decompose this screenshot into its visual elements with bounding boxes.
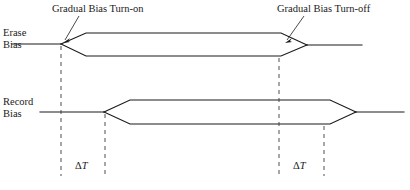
delta-t-label-right: ΔT <box>293 160 306 172</box>
gradual-bias-turn-off-label: Gradual Bias Turn-off <box>277 3 370 15</box>
delta-symbol-right: Δ <box>293 160 300 171</box>
turn-off-leader-line <box>287 16 304 40</box>
erase-bias-label-line1: Erase <box>3 27 26 39</box>
record-bias-axis-label: Record Bias <box>3 96 33 121</box>
record-bias-label-line1: Record <box>3 96 33 108</box>
record-bias-upper-envelope <box>104 100 356 112</box>
delta-t-label-left: ΔT <box>75 160 88 172</box>
erase-bias-waveform <box>12 33 362 56</box>
turn-off-arrowhead <box>285 38 292 43</box>
timing-markers <box>61 46 324 176</box>
erase-bias-axis-label: Erase Bias <box>3 27 26 52</box>
record-bias-label-line2: Bias <box>3 108 33 120</box>
erase-bias-upper-envelope <box>61 33 307 45</box>
turn-on-leader-line <box>65 16 79 40</box>
erase-bias-label-line2: Bias <box>3 39 26 51</box>
delta-t-variable-left: T <box>82 160 88 171</box>
record-bias-lower-envelope <box>104 112 356 124</box>
callout-leaders <box>63 16 304 43</box>
waveform-canvas <box>0 0 410 190</box>
delta-t-variable-right: T <box>300 160 306 171</box>
timing-diagram-figure: Erase Bias Record Bias Gradual Bias Turn… <box>0 0 410 190</box>
delta-symbol-left: Δ <box>75 160 82 171</box>
record-bias-waveform <box>40 100 404 124</box>
gradual-bias-turn-on-label: Gradual Bias Turn-on <box>52 3 144 15</box>
erase-bias-lower-envelope <box>61 44 307 56</box>
